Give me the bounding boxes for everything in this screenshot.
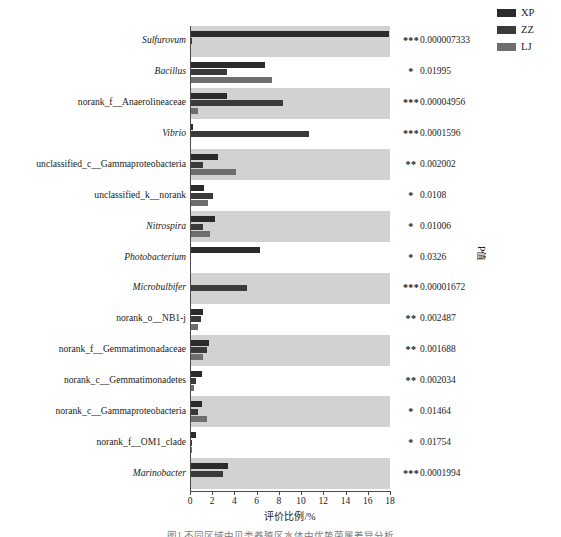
pvalue-text: 0.01754: [420, 437, 500, 447]
pvalue-text: 0.01464: [420, 406, 500, 416]
x-axis-tick: [279, 491, 280, 495]
y-axis-label: Sulfurovum: [4, 35, 190, 45]
x-axis-title: 评价比例/%: [190, 508, 390, 523]
x-axis-tick-label: 6: [247, 496, 267, 506]
pvalue-text: 0.0108: [420, 190, 500, 200]
y-axis-label: Microbulbifer: [4, 282, 190, 292]
x-axis-tick: [390, 491, 391, 495]
pvalue-text: 0.001688: [420, 344, 500, 354]
bar-lj: [190, 231, 210, 237]
x-axis-tick: [190, 491, 191, 495]
x-axis-tick-label: 12: [313, 496, 333, 506]
bar-xp: [190, 62, 265, 68]
y-axis-label: norank_c__Gammaproteobacteria: [4, 406, 190, 416]
bar-xp: [190, 340, 209, 346]
x-axis-line: [190, 491, 390, 492]
x-axis-tick-label: 2: [202, 496, 222, 506]
bar-lj: [190, 416, 207, 422]
row-band: [190, 396, 390, 427]
chart-figure: XP ZZ LJ SulfurovumBacillusnorank_f__Ana…: [0, 0, 561, 537]
y-axis-label: Bacillus: [4, 66, 190, 76]
bar-zz: [190, 162, 203, 168]
x-axis-tick: [368, 491, 369, 495]
y-axis-label: norank_c__Gemmatimonadetes: [4, 375, 190, 385]
bar-zz: [190, 409, 198, 415]
pvalue-text: 0.00001672: [420, 282, 500, 292]
pvalue-text: 0.01995: [420, 66, 500, 76]
legend-item-xp: XP: [497, 6, 557, 19]
bar-zz: [190, 100, 283, 106]
row-band: [190, 180, 390, 211]
row-band: [190, 335, 390, 366]
bar-zz: [190, 471, 223, 477]
x-axis-tick-label: 10: [291, 496, 311, 506]
x-axis-tick-label: 4: [224, 496, 244, 506]
y-axis-label: norank_f__OM1_clade: [4, 437, 190, 447]
x-axis-tick: [346, 491, 347, 495]
y-axis-label: unclassified_c__Gammaproteobacteria: [4, 159, 190, 169]
y-axis-label: norank_o__NB1-j: [4, 313, 190, 323]
legend-label-zz: ZZ: [521, 25, 534, 35]
pvalue-text: 0.01006: [420, 221, 500, 231]
legend-item-zz: ZZ: [497, 23, 557, 36]
legend-label-xp: XP: [521, 8, 534, 18]
y-axis-label: unclassified_k__norank: [4, 190, 190, 200]
bar-xp: [190, 93, 227, 99]
bar-zz: [190, 69, 227, 75]
bar-lj: [190, 108, 198, 114]
bar-xp: [190, 31, 389, 37]
y-axis-label: Photobacterium: [4, 252, 190, 262]
pvalue-text: 0.002002: [420, 159, 500, 169]
x-axis-tick-label: 8: [269, 496, 289, 506]
legend-item-lj: LJ: [497, 40, 557, 53]
pvalue-text: 0.002487: [420, 313, 500, 323]
y-axis-label: Nitrospira: [4, 221, 190, 231]
x-axis-tick-label: 0: [180, 496, 200, 506]
bar-xp: [190, 154, 218, 160]
bar-lj: [190, 200, 208, 206]
bar-lj: [190, 354, 203, 360]
y-axis-label: Vibrio: [4, 128, 190, 138]
bar-lj: [190, 324, 198, 330]
bar-zz: [190, 316, 201, 322]
legend-label-lj: LJ: [521, 42, 532, 52]
bar-xp: [190, 247, 260, 253]
x-axis-tick: [212, 491, 213, 495]
y-axis-label: Marinobacter: [4, 468, 190, 478]
row-band: [190, 149, 390, 180]
bar-xp: [190, 309, 203, 315]
bar-xp: [190, 185, 204, 191]
pvalue-text: 0.002034: [420, 375, 500, 385]
x-axis-tick-label: 18: [380, 496, 400, 506]
bar-xp: [190, 401, 202, 407]
bar-zz: [190, 131, 309, 137]
row-band: [190, 427, 390, 458]
row-band: [190, 304, 390, 335]
x-axis-tick-label: 14: [336, 496, 356, 506]
x-axis-tick: [323, 491, 324, 495]
row-band: [190, 211, 390, 242]
plot-area: [190, 26, 390, 489]
bar-lj: [190, 77, 272, 83]
pvalue-text: 0.0001994: [420, 468, 500, 478]
bar-zz: [190, 224, 203, 230]
bar-xp: [190, 216, 215, 222]
bar-zz: [190, 347, 207, 353]
p-axis-title: P值: [475, 246, 489, 261]
pvalue-text: 0.00004956: [420, 97, 500, 107]
x-axis-tick: [234, 491, 235, 495]
y-axis-label: norank_f__Gemmatimonadaceae: [4, 344, 190, 354]
figure-caption: 图1 不同区域中贝类养殖区水体中优势菌属差异分析: [0, 528, 561, 537]
bar-lj: [190, 169, 236, 175]
pvalue-text: 0.000007333: [420, 35, 500, 45]
bar-zz: [190, 285, 247, 291]
pvalue-text: 0.0001596: [420, 128, 500, 138]
y-axis-line: [190, 26, 191, 492]
x-axis-tick-label: 16: [358, 496, 378, 506]
legend: XP ZZ LJ: [497, 6, 557, 57]
y-axis-labels: SulfurovumBacillusnorank_f__Anaerolineac…: [0, 26, 190, 489]
y-axis-label: norank_f__Anaerolineaceae: [4, 97, 190, 107]
bar-xp: [190, 463, 228, 469]
x-axis-tick: [301, 491, 302, 495]
legend-swatch-xp: [497, 9, 516, 17]
